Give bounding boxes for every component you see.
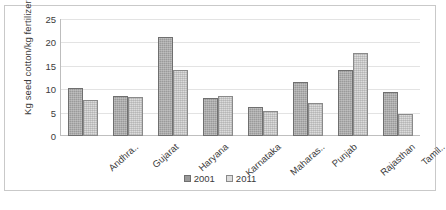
y-tick-label: 0 (51, 131, 56, 142)
bar-2001 (68, 88, 83, 136)
x-tick-label: Andhra.. (107, 141, 141, 173)
x-tick-label: Tamil.. (419, 141, 446, 168)
bar-2011 (218, 96, 233, 136)
x-tick-label: Punjab (329, 141, 358, 169)
legend-item-2011: 2011 (226, 173, 256, 184)
y-tick-label: 10 (45, 84, 56, 95)
legend-swatch-icon (184, 175, 191, 182)
bar-2011 (128, 97, 143, 136)
x-tick-label: Gujarat (150, 141, 181, 170)
bar-2001 (338, 70, 353, 136)
bar-group (383, 19, 413, 136)
legend-swatch-icon (226, 175, 233, 182)
bar-group (158, 19, 188, 136)
plot-area: 0510152025 Andhra..GujaratHaryanaKarnata… (60, 19, 420, 136)
chart-container: Kg seed cotton/kg fertilizer 0510152025 … (4, 5, 436, 191)
bar-2011 (308, 103, 323, 136)
bar-group (203, 19, 233, 136)
chart-legend: 20012011 (5, 173, 435, 184)
bar-group (113, 19, 143, 136)
bar-2011 (398, 114, 413, 136)
bar-group (293, 19, 323, 136)
y-tick-label: 20 (45, 37, 56, 48)
legend-label: 2011 (236, 173, 256, 184)
y-tick-label: 25 (45, 14, 56, 25)
bar-2001 (248, 107, 263, 136)
x-tick-label: Haryana (196, 141, 230, 173)
bar-2011 (263, 111, 278, 136)
bar-2011 (353, 53, 368, 136)
bar-2001 (383, 92, 398, 136)
legend-item-2001: 2001 (184, 173, 215, 184)
y-tick-label: 15 (45, 60, 56, 71)
bar-group (248, 19, 278, 136)
bar-2011 (83, 100, 98, 136)
bar-2011 (173, 70, 188, 136)
y-tick-label: 5 (51, 107, 56, 118)
legend-label: 2001 (194, 173, 215, 184)
bar-group (68, 19, 98, 136)
bar-2001 (203, 98, 218, 136)
bar-2001 (113, 96, 128, 136)
x-tick-label: Maharas.. (288, 141, 327, 177)
bar-2001 (158, 37, 173, 136)
bar-group (338, 19, 368, 136)
bar-2001 (293, 82, 308, 136)
y-axis-title: Kg seed cotton/kg fertilizer (22, 0, 33, 128)
